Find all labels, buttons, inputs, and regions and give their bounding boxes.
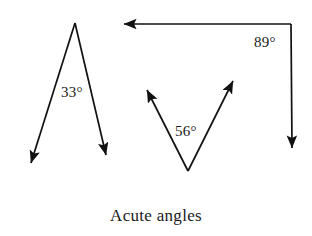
angle-33-label: 33° bbox=[61, 85, 83, 100]
angle-89-label: 89° bbox=[254, 35, 276, 50]
angle-56-label: 56° bbox=[175, 124, 197, 139]
angle-89-vertical-ray bbox=[291, 24, 292, 148]
figure-caption: Acute angles bbox=[0, 206, 312, 226]
acute-angles-figure: 33° 56° 89° Acute angles bbox=[0, 0, 312, 236]
